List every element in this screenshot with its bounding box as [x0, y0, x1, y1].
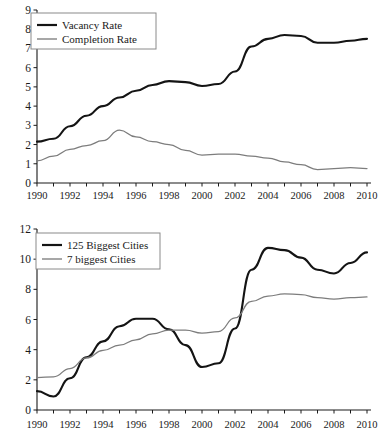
y-tick-label: 5 — [25, 81, 31, 93]
y-tick-label: 6 — [25, 314, 31, 326]
x-tick-label: 1994 — [93, 190, 115, 201]
y-tick-label: 1 — [25, 158, 31, 170]
y-tick-label: 4 — [25, 344, 31, 356]
x-tick-label: 2004 — [258, 419, 280, 430]
x-tick-label: 1996 — [126, 419, 147, 430]
x-tick-label: 1990 — [27, 419, 48, 430]
x-tick-label: 2002 — [225, 419, 246, 430]
series-line — [37, 130, 367, 169]
y-tick-label: 4 — [25, 100, 31, 112]
x-tick-label: 1998 — [159, 419, 180, 430]
x-tick-label: 2000 — [192, 190, 213, 201]
y-tick-label: 3 — [25, 119, 31, 131]
y-tick-label: 9 — [25, 4, 31, 16]
x-tick-label: 2000 — [192, 419, 213, 430]
y-tick-label: 8 — [25, 23, 31, 35]
y-tick-label: 12 — [20, 223, 32, 235]
x-tick-label: 2010 — [357, 419, 378, 430]
y-tick-label: 2 — [25, 139, 31, 151]
vacancy-completion-chart: 0123456789199019921994199619982000200220… — [0, 0, 391, 208]
x-tick-label: 1992 — [60, 190, 81, 201]
series-line — [37, 294, 367, 378]
x-tick-label: 2004 — [258, 190, 280, 201]
x-tick-label: 2008 — [324, 419, 345, 430]
x-tick-label: 2002 — [225, 190, 246, 201]
y-tick-label: 0 — [25, 177, 31, 189]
x-tick-label: 1994 — [93, 419, 115, 430]
y-tick-label: 2 — [25, 374, 31, 386]
x-tick-label: 2006 — [291, 419, 312, 430]
y-tick-label: 0 — [25, 404, 31, 416]
y-tick-label: 10 — [20, 253, 32, 265]
series-line — [37, 35, 367, 142]
x-tick-label: 1998 — [159, 190, 180, 201]
x-tick-label: 1992 — [60, 419, 81, 430]
y-tick-label: 6 — [25, 62, 31, 74]
x-tick-label: 1990 — [27, 190, 48, 201]
y-tick-label: 8 — [25, 283, 31, 295]
x-tick-label: 2008 — [324, 190, 345, 201]
vacancy-completion-plot-area: 0123456789199019921994199619982000200220… — [0, 0, 391, 208]
y-tick-label: 7 — [25, 42, 31, 54]
cities-comparison-plot-area: 0246810121990199219941996199820002002200… — [0, 212, 391, 438]
series-line — [37, 248, 367, 397]
legend-label: Completion Rate — [62, 33, 137, 45]
legend-label: 125 Biggest Cities — [67, 239, 148, 251]
x-tick-label: 2006 — [291, 190, 312, 201]
x-tick-label: 2010 — [357, 190, 378, 201]
legend-label: Vacancy Rate — [62, 19, 122, 31]
x-tick-label: 1996 — [126, 190, 147, 201]
cities-comparison-chart: 0246810121990199219941996199820002002200… — [0, 212, 391, 438]
legend-label: 7 biggest Cities — [67, 253, 135, 265]
